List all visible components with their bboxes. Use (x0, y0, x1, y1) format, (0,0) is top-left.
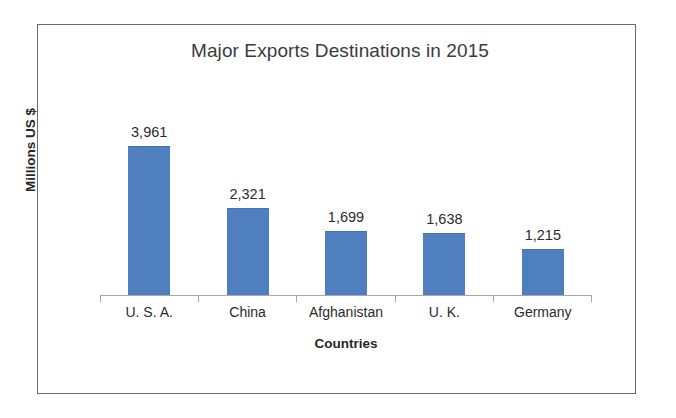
bar-value-label: 1,215 (494, 227, 592, 243)
bar-value-label: 2,321 (198, 186, 296, 202)
x-axis-tick (591, 296, 592, 302)
x-axis-tick (395, 296, 396, 302)
bar[interactable] (325, 231, 367, 295)
bar-chart: Major Exports Destinations in 2015 Milli… (0, 0, 676, 418)
bar-value-label: 1,638 (395, 211, 493, 227)
bar-group: 3,9612,3211,6991,6381,215 (100, 90, 592, 295)
y-axis-title: Millions US $ (23, 80, 43, 220)
bar-slot: 3,961 (100, 90, 198, 295)
bar-slot: 1,699 (297, 90, 395, 295)
x-axis-category-label: Afghanistan (297, 304, 395, 320)
bar[interactable] (128, 146, 170, 295)
chart-title: Major Exports Destinations in 2015 (60, 40, 620, 62)
bar-slot: 1,215 (494, 90, 592, 295)
x-axis-title: Countries (100, 336, 592, 351)
x-axis-category-label: U. S. A. (100, 304, 198, 320)
bar-slot: 1,638 (395, 90, 493, 295)
x-axis-category-label: Germany (494, 304, 592, 320)
x-axis-tick (198, 296, 199, 302)
plot-area: 3,9612,3211,6991,6381,215 (100, 90, 592, 296)
x-axis-category-label: China (198, 304, 296, 320)
bar-value-label: 1,699 (297, 209, 395, 225)
x-axis-category-label: U. K. (395, 304, 493, 320)
x-axis-tick (100, 296, 101, 302)
bar-value-label: 3,961 (100, 124, 198, 140)
bar[interactable] (522, 249, 564, 295)
chart-screenshot: Major Exports Destinations in 2015 Milli… (0, 0, 676, 418)
x-axis-tick (296, 296, 297, 302)
bar-slot: 2,321 (198, 90, 296, 295)
x-axis-line (100, 295, 592, 296)
bar[interactable] (227, 208, 269, 295)
x-axis-category-labels: U. S. A.ChinaAfghanistanU. K.Germany (100, 304, 592, 320)
bar[interactable] (423, 233, 465, 295)
x-axis-tick (493, 296, 494, 302)
